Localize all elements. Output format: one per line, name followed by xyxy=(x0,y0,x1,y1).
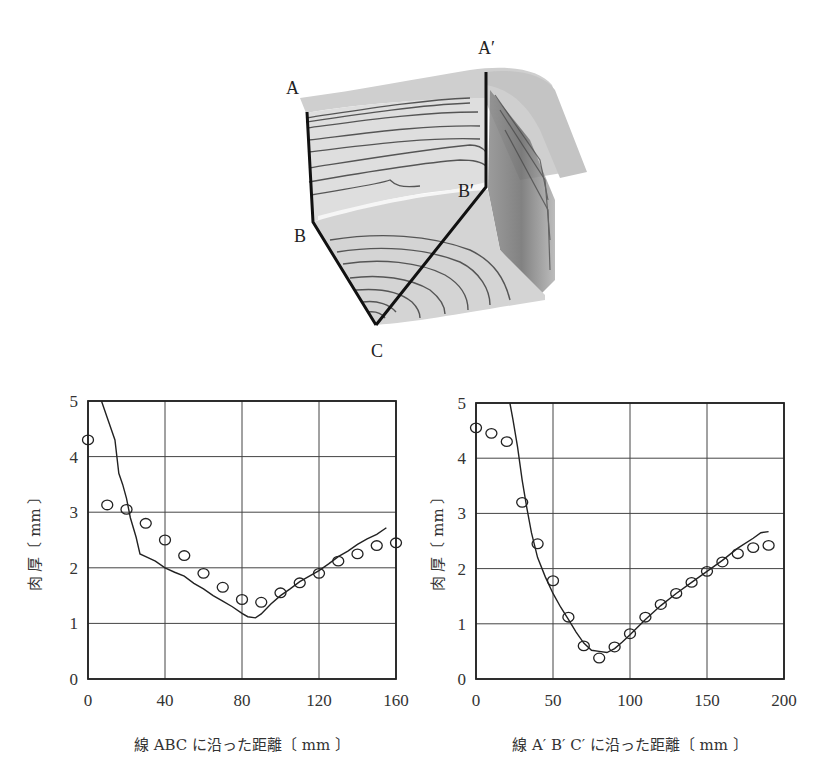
measured-point xyxy=(594,653,605,663)
y-tick-label: 5 xyxy=(458,394,467,413)
measured-point xyxy=(655,600,666,610)
y-tick-label: 0 xyxy=(458,670,467,689)
measured-point xyxy=(748,543,759,553)
measured-point xyxy=(486,429,497,439)
measured-point xyxy=(717,557,728,567)
y-axis-label: 肉 厚〔 mm 〕 xyxy=(429,489,447,592)
measured-point xyxy=(640,612,651,622)
x-tick-label: 0 xyxy=(472,691,481,710)
x-tick-label: 200 xyxy=(771,691,797,710)
x-tick-label: 150 xyxy=(694,691,720,710)
simulation-line xyxy=(510,403,769,653)
x-axis-label: 線 A′ B′ C′ に沿った距離〔 mm 〕 xyxy=(512,736,748,754)
y-tick-label: 1 xyxy=(458,615,467,634)
y-tick-label: 4 xyxy=(458,449,467,468)
measured-point xyxy=(763,541,774,551)
measured-point xyxy=(501,437,512,447)
y-tick-label: 3 xyxy=(458,504,467,523)
grid xyxy=(476,403,784,679)
thickness-chart-a-prime-b-prime-c: 050100150200012345 線 A′ B′ C′ に沿った距離〔 mm… xyxy=(0,0,823,777)
x-tick-label: 100 xyxy=(617,691,643,710)
measured-point xyxy=(732,549,743,559)
x-tick-label: 50 xyxy=(545,691,562,710)
y-tick-label: 2 xyxy=(458,560,467,579)
axis-ticks: 050100150200012345 xyxy=(458,394,797,710)
measured-point xyxy=(609,642,620,652)
